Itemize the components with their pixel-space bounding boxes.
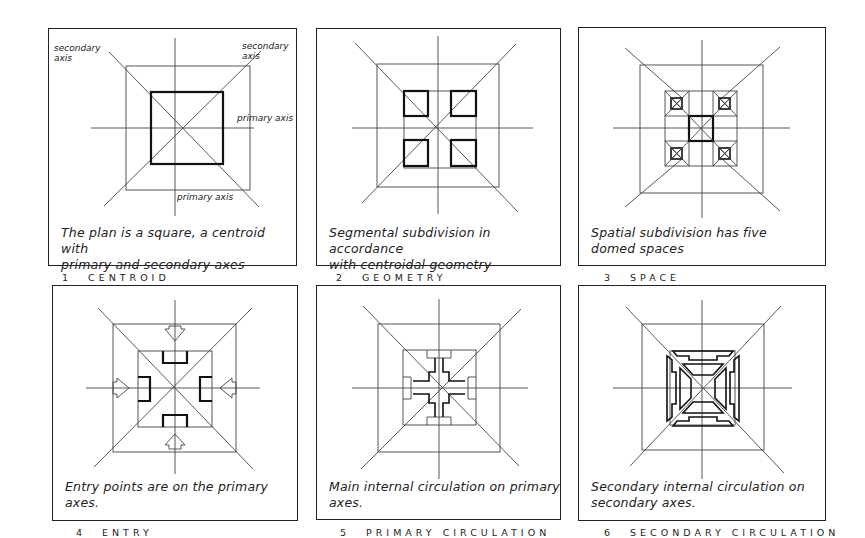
dome-bottom-left bbox=[665, 141, 689, 166]
caption-entry: Entry points are on the primary axes. bbox=[65, 479, 268, 511]
panel-title: PRIMARY CIRCULATION bbox=[366, 527, 550, 538]
panel-label-centroid: 1CENTROID bbox=[62, 272, 170, 283]
dome-top-left bbox=[665, 91, 689, 116]
panel-number: 2 bbox=[336, 272, 362, 283]
caption-centroid: The plan is a square, a centroid with pr… bbox=[61, 225, 296, 273]
panel-title: SECONDARY CIRCULATION bbox=[630, 527, 839, 538]
dome-top-right bbox=[713, 91, 737, 116]
panel-number: 4 bbox=[76, 527, 102, 538]
panel-label-space: 3SPACE bbox=[604, 272, 680, 283]
caption-primary-circulation: Main internal circulation on primary axe… bbox=[329, 479, 560, 511]
panel-geometry: Segmental subdivision in accordance with… bbox=[316, 28, 561, 266]
panel-label-entry: 4ENTRY bbox=[76, 527, 153, 538]
panel-primary-circulation: Main internal circulation on primary axe… bbox=[316, 285, 561, 520]
annotation-primary-axis-right: primary axis bbox=[237, 113, 293, 123]
annotation-primary-axis-bottom: primary axis bbox=[177, 192, 233, 202]
caption-geometry: Segmental subdivision in accordance with… bbox=[329, 225, 560, 273]
annotation-secondary-axis-right: secondary axis bbox=[242, 41, 289, 61]
panel-title: CENTROID bbox=[88, 272, 170, 283]
panel-label-geometry: 2GEOMETRY bbox=[336, 272, 447, 283]
caption-secondary-circulation: Secondary internal circulation on second… bbox=[591, 479, 805, 511]
annotation-secondary-axis-left: secondary axis bbox=[54, 43, 101, 63]
panel-title: GEOMETRY bbox=[362, 272, 447, 283]
panel-entry: Entry points are on the primary axes. bbox=[52, 285, 298, 521]
panel-label-primary-circulation: 5PRIMARY CIRCULATION bbox=[340, 527, 550, 538]
caption-space: Spatial subdivision has five domed space… bbox=[591, 225, 767, 257]
panel-number: 6 bbox=[604, 527, 630, 538]
panel-label-secondary-circulation: 6SECONDARY CIRCULATION bbox=[604, 527, 839, 538]
panel-centroid: secondary axis secondary axis primary ax… bbox=[48, 28, 297, 266]
panel-number: 5 bbox=[340, 527, 366, 538]
dome-center bbox=[689, 116, 713, 141]
panel-number: 3 bbox=[604, 272, 630, 283]
panel-title: SPACE bbox=[630, 272, 680, 283]
panel-number: 1 bbox=[62, 272, 88, 283]
panel-space: Spatial subdivision has five domed space… bbox=[578, 27, 826, 266]
panel-title: ENTRY bbox=[102, 527, 153, 538]
panel-secondary-circulation: Secondary internal circulation on second… bbox=[578, 285, 826, 521]
